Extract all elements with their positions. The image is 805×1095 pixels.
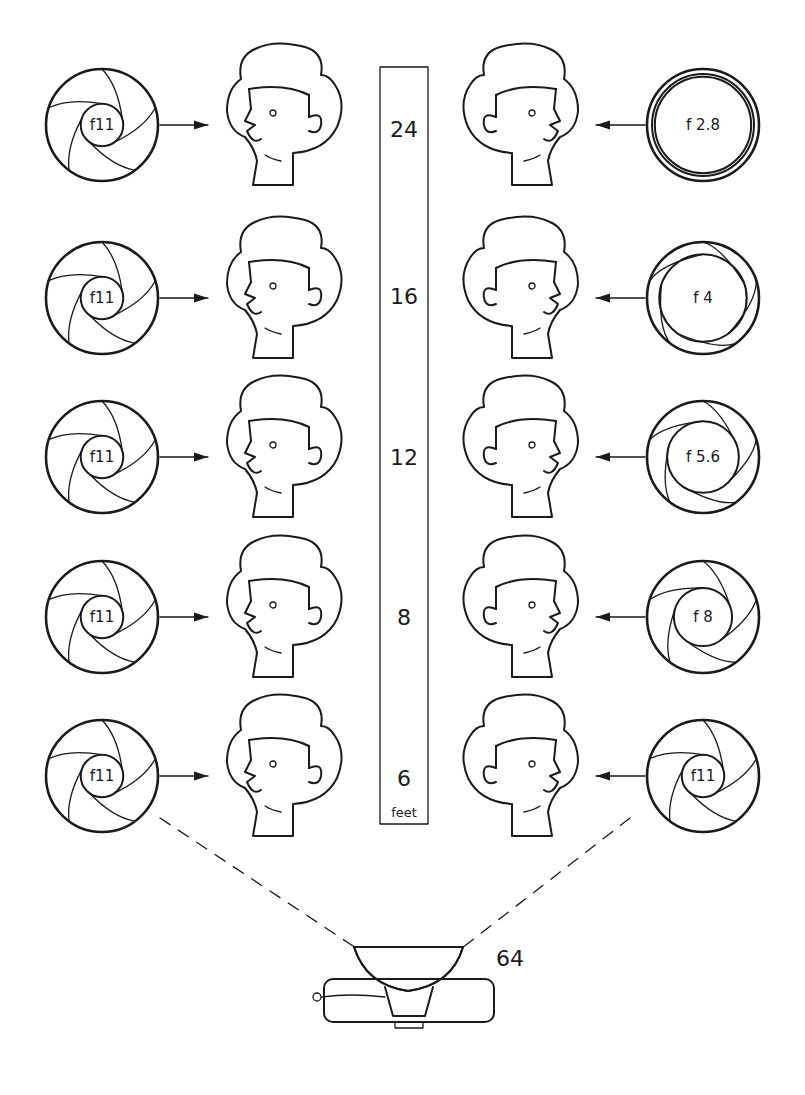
aperture-blade <box>650 254 703 280</box>
chin <box>265 487 281 493</box>
face-outline <box>227 694 342 836</box>
eye <box>529 602 535 608</box>
face-front <box>554 581 556 601</box>
left-face-icon <box>227 375 342 517</box>
aperture-blade <box>724 440 756 486</box>
right-aperture-icon: f11 <box>647 720 759 832</box>
ear <box>309 288 321 305</box>
nose-mouth <box>544 441 560 473</box>
face-outline <box>463 43 578 185</box>
chin <box>265 155 281 161</box>
aperture-label: f 4 <box>693 289 713 307</box>
aperture-blade <box>69 611 82 663</box>
flash-beam-right <box>462 818 630 948</box>
nose-mouth <box>245 109 261 141</box>
hairline <box>496 419 556 427</box>
arrow-head <box>194 772 208 781</box>
aperture-label: f 8 <box>693 608 713 626</box>
hairline <box>249 579 309 587</box>
arrow-head <box>194 613 208 622</box>
nose-mouth <box>245 282 261 314</box>
left-aperture-icon: f11 <box>46 720 158 832</box>
guide-number-label: 64 <box>496 946 524 971</box>
ear <box>484 115 496 132</box>
chin <box>524 806 540 812</box>
eye <box>270 283 276 289</box>
flash-exposure-diagram: 24 16 12 8 6 feet f11f 2.8f11f 4f11f 5.6… <box>0 0 805 1095</box>
right-face-icon <box>463 535 578 677</box>
aperture-blade <box>69 292 82 344</box>
right-aperture-icon: f 2.8 <box>647 69 759 181</box>
face-front <box>554 89 556 109</box>
left-face-icon <box>227 43 342 185</box>
left-face-icon <box>227 694 342 836</box>
distance-label: 12 <box>390 445 418 470</box>
face-outline <box>227 375 342 517</box>
face-front <box>249 421 251 441</box>
flash-reflector <box>354 947 463 991</box>
eye <box>270 110 276 116</box>
hairline <box>496 260 556 268</box>
right-aperture-icon: f 5.6 <box>647 401 759 513</box>
right-face-icon <box>463 694 578 836</box>
arrow-head <box>194 121 208 130</box>
aperture-label: f 5.6 <box>686 448 720 466</box>
exposure-rows: f11f 2.8f11f 4f11f 5.6f11f 8f11f11 <box>46 43 759 836</box>
flash-knob <box>313 993 321 1001</box>
left-aperture-icon: f11 <box>46 69 158 181</box>
aperture-blade <box>69 770 82 822</box>
unit-label: feet <box>391 805 417 820</box>
face-outline <box>463 694 578 836</box>
ear <box>484 447 496 464</box>
flash-beam-left <box>160 818 356 948</box>
left-aperture-icon: f11 <box>46 242 158 354</box>
arrow-head <box>596 121 610 130</box>
eye <box>270 761 276 767</box>
chin <box>265 806 281 812</box>
hairline <box>496 87 556 95</box>
nose-mouth <box>245 760 261 792</box>
arrow-head <box>596 453 610 462</box>
distance-label: 6 <box>397 766 411 791</box>
right-face-icon <box>463 216 578 358</box>
aperture-blade <box>703 242 745 284</box>
hairline <box>249 738 309 746</box>
hairline <box>249 260 309 268</box>
chin <box>265 328 281 334</box>
chin <box>524 155 540 161</box>
right-aperture-icon: f 8 <box>647 561 759 673</box>
arrow-head <box>194 294 208 303</box>
eye <box>529 761 535 767</box>
right-aperture-icon: f 4 <box>647 242 759 354</box>
nose-mouth <box>544 760 560 792</box>
exposure-row: f11f 2.8 <box>46 43 759 185</box>
left-face-icon <box>227 535 342 677</box>
aperture-blade <box>69 451 82 503</box>
hairline <box>496 579 556 587</box>
aperture-label: f11 <box>90 608 114 626</box>
aperture-label: f11 <box>90 289 114 307</box>
ear <box>309 115 321 132</box>
face-outline <box>463 216 578 358</box>
face-outline <box>463 535 578 677</box>
left-aperture-icon: f11 <box>46 561 158 673</box>
aperture-label: f11 <box>90 116 114 134</box>
eye <box>529 110 535 116</box>
aperture-label: f11 <box>691 767 715 785</box>
arrow-head <box>596 294 610 303</box>
ear <box>484 766 496 783</box>
distance-label: 24 <box>390 117 418 142</box>
eye <box>270 442 276 448</box>
distance-scale: 24 16 12 8 6 feet <box>380 67 428 824</box>
face-front <box>554 421 556 441</box>
flash-cord <box>322 995 385 997</box>
hairline <box>249 87 309 95</box>
right-face-icon <box>463 43 578 185</box>
chin <box>524 647 540 653</box>
eye <box>270 602 276 608</box>
aperture-label: f11 <box>90 448 114 466</box>
face-front <box>554 262 556 282</box>
face-front <box>249 581 251 601</box>
nose-mouth <box>245 601 261 633</box>
nose-mouth <box>245 441 261 473</box>
